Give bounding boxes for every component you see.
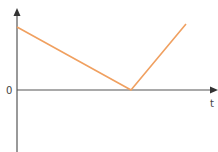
y-axis xyxy=(14,8,21,152)
data-line xyxy=(17,24,186,90)
x-axis xyxy=(17,87,218,94)
chart: 0 t xyxy=(0,0,218,152)
y-axis-arrow-icon xyxy=(14,8,21,16)
x-axis-label: t xyxy=(210,98,214,109)
x-axis-arrow-icon xyxy=(210,87,218,94)
origin-label: 0 xyxy=(6,85,12,96)
